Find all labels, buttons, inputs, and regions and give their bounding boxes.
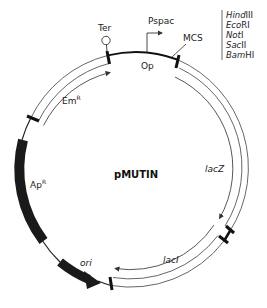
- site-sacii: SacII: [226, 40, 246, 50]
- ter-tick: [107, 51, 110, 64]
- lacz-region: lacZ: [175, 68, 242, 226]
- mcs-label: MCS: [183, 33, 203, 43]
- tick-connector: [224, 231, 230, 241]
- plasmid-name: pMUTIN: [114, 169, 158, 180]
- ori-label: ori: [80, 258, 92, 268]
- terminator-icon: [102, 36, 110, 44]
- op-label: Op: [141, 61, 154, 71]
- emr-label: EmR: [62, 94, 81, 106]
- site-noti: NotI: [226, 30, 243, 40]
- mcs-tick: [176, 55, 179, 68]
- emr-region: EmR: [39, 63, 111, 125]
- site-ecori: EcoRI: [226, 20, 250, 30]
- laci-label: lacI: [163, 255, 179, 265]
- promoter-arrow-icon: [147, 33, 162, 52]
- pspac-label: Pspac: [148, 16, 174, 26]
- lower-tick: [110, 277, 112, 290]
- site-bamhi: BamHI: [226, 50, 254, 60]
- mcs-site-list: HindIII EcoRI NotI SacII BamHI: [222, 10, 254, 60]
- lacz-label: lacZ: [205, 164, 225, 174]
- plasmid-map: EmR lacZ lacI ApR ori Ter: [0, 0, 267, 308]
- site-hindiii: HindIII: [226, 10, 253, 20]
- terminator: Ter: [97, 23, 112, 52]
- apr-gene: ApR: [19, 140, 46, 241]
- ter-label: Ter: [97, 23, 112, 33]
- pspac-promoter: Pspac Op: [141, 16, 174, 71]
- mcs: MCS: [172, 33, 203, 57]
- ori-region: ori: [60, 258, 101, 289]
- apr-label: ApR: [30, 178, 46, 190]
- emr-tick: [27, 116, 39, 121]
- laci-region: lacI: [113, 225, 218, 279]
